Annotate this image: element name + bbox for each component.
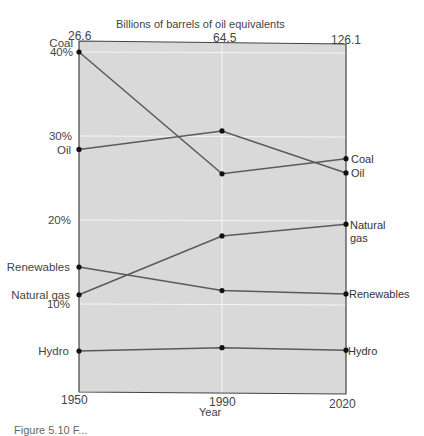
marker-renewables-2020: [343, 291, 348, 296]
marker-hydro-1950: [76, 348, 81, 353]
top-tick-1990: 64.5: [213, 31, 236, 45]
right-label-coal: Coal: [351, 153, 374, 165]
plot-background: [79, 41, 346, 394]
left-label-renewables: Renewables: [7, 261, 70, 273]
marker-oil-2020: [343, 170, 348, 175]
marker-oil-1990: [219, 128, 224, 133]
marker-coal-1950: [76, 49, 81, 54]
marker-natural-gas-1990: [219, 233, 224, 238]
y-tick-30: 30%: [49, 130, 72, 142]
right-label-renewables: Renewables: [349, 288, 410, 300]
figure-caption: Figure 5.10 F...: [14, 424, 87, 436]
right-label-natural-gas-1: Natural: [350, 219, 385, 231]
left-label-oil: Oil: [57, 144, 71, 156]
top-axis-title: Billions of barrels of oil equivalents: [116, 18, 285, 30]
marker-renewables-1950: [76, 264, 81, 269]
marker-natural-gas-2020: [343, 222, 348, 227]
marker-coal-2020: [343, 156, 348, 161]
right-label-natural-gas-2: gas: [350, 232, 368, 244]
marker-coal-1990: [219, 171, 224, 176]
x-tick-2020: 2020: [329, 397, 356, 411]
x-axis-label: Year: [199, 406, 221, 418]
top-tick-2020: 126.1: [331, 33, 361, 47]
right-label-hydro: Hydro: [348, 345, 377, 357]
x-tick-1950: 1950: [61, 393, 88, 407]
right-label-oil: Oil: [351, 167, 364, 179]
marker-renewables-1990: [219, 288, 224, 293]
left-label-hydro: Hydro: [38, 345, 69, 357]
marker-hydro-1990: [219, 345, 224, 350]
y-tick-40: 40%: [50, 46, 73, 58]
marker-natural-gas-1950: [76, 292, 81, 297]
marker-oil-1950: [76, 147, 81, 152]
y-tick-10: 10%: [47, 298, 70, 310]
y-tick-20: 20%: [48, 214, 71, 226]
